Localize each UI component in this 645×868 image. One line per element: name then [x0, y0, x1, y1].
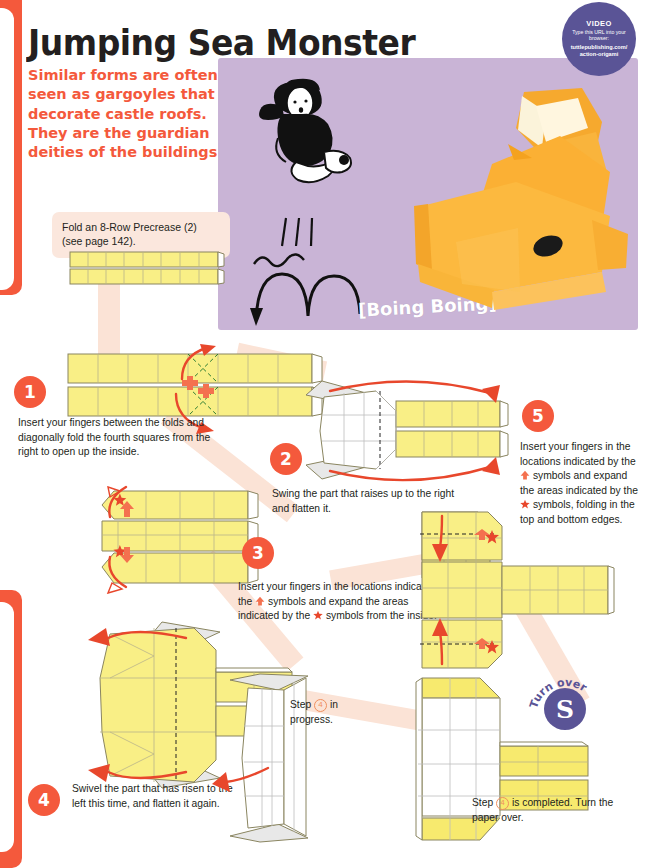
hero-photo: [Boing Boing]: [218, 58, 638, 330]
finished-model-photo: [396, 86, 638, 318]
diagram-step-2: [300, 375, 512, 485]
step-badge-4: 4: [28, 784, 60, 816]
page-tab-top-inner: [0, 8, 14, 290]
note-completed-b: is completed. Turn the paper over.: [472, 797, 613, 823]
page-blurb: Similar forms are often seen as gargoyle…: [28, 66, 233, 162]
circled-step-number: 4: [314, 699, 327, 712]
circled-step-number: 4: [496, 797, 509, 810]
jumping-person-illustration: [238, 76, 368, 206]
note-in-progress-a: Step: [290, 699, 311, 710]
step-badge-2: 2: [270, 443, 302, 475]
step-badge-3: 3: [242, 537, 274, 569]
page-tab-bottom-inner: [0, 602, 14, 852]
note-completed: Step 4 is completed. Turn the paper over…: [472, 796, 632, 825]
step-text-1: Insert your fingers between the folds an…: [18, 416, 230, 460]
video-badge-url-1: tuttlepublishing.com/: [571, 44, 628, 50]
video-badge[interactable]: VIDEO Type this URL into your browser: t…: [562, 2, 636, 76]
turn-over-glyph: S: [544, 688, 586, 730]
note-completed-a: Step: [472, 797, 493, 808]
video-badge-url-2: action-origami: [580, 51, 619, 57]
video-badge-label: VIDEO: [586, 20, 611, 28]
finger-pin-icon: [255, 596, 265, 606]
step-text-4: Swivel the part that has risen to the le…: [72, 782, 237, 811]
diagram-precrease: [68, 250, 228, 288]
finger-pin-icon: [520, 470, 530, 480]
step-badge-1: 1: [14, 376, 46, 408]
note-in-progress: Step 4 in progress.: [290, 698, 370, 727]
step-5-text-b: symbols and expand the areas indicated b…: [520, 470, 638, 496]
step-badge-5: 5: [522, 400, 554, 432]
turn-over-badge: Turn over S: [530, 668, 600, 738]
star-icon: [313, 610, 323, 620]
step-5-text-a: Insert your fingers in the locations ind…: [520, 441, 636, 467]
diagram-step-5: [418, 508, 628, 673]
motion-lines-icon: [280, 216, 326, 248]
video-badge-subtitle: Type this URL into your browser:: [562, 30, 636, 42]
